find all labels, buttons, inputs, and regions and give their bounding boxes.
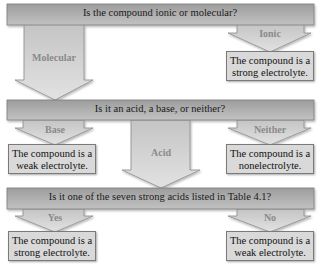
branch-label-acid: Acid (151, 147, 171, 158)
result-text-line2: strong electrolyte. (227, 67, 313, 79)
result-box-no: The compound is a weak electrolyte. (226, 231, 314, 261)
result-text-line1: The compound is a (227, 55, 313, 67)
branch-label-no: No (264, 212, 276, 223)
result-text-line1: The compound is a (227, 235, 313, 247)
question-acid-base-neither: Is it an acid, a base, or neither? (95, 103, 225, 114)
result-box-base: The compound is a weak electrolyte. (8, 144, 96, 174)
result-box-ionic: The compound is a strong electrolyte. (226, 51, 314, 81)
result-text-line1: The compound is a (9, 148, 95, 160)
result-box-yes: The compound is a strong electrolyte. (8, 231, 96, 261)
result-text-line2: weak electrolyte. (227, 247, 313, 259)
branch-label-ionic: Ionic (259, 28, 281, 39)
result-text-line2: weak electrolyte. (9, 160, 95, 172)
question-strong-acid: Is it one of the seven strong acids list… (49, 191, 271, 202)
result-text-line1: The compound is a (227, 148, 313, 160)
result-text-line2: strong electrolyte. (9, 247, 95, 259)
result-box-neither: The compound is a nonelectrolyte. (226, 144, 314, 174)
question-ionic-or-molecular: Is the compound ionic or molecular? (83, 7, 237, 18)
result-text-line2: nonelectrolyte. (227, 160, 313, 172)
result-text-line1: The compound is a (9, 235, 95, 247)
branch-label-molecular: Molecular (32, 52, 76, 63)
branch-label-base: Base (45, 124, 65, 135)
branch-label-neither: Neither (254, 124, 286, 135)
branch-label-yes: Yes (48, 212, 62, 223)
